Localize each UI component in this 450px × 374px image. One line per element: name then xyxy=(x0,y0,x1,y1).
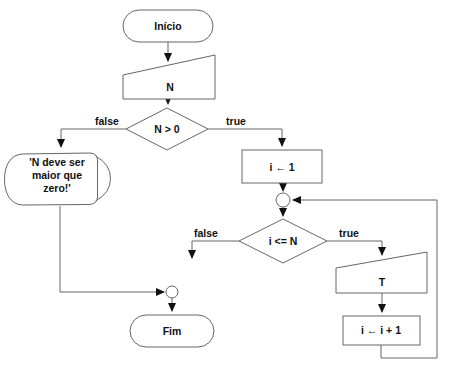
node-read-t: T xyxy=(336,252,427,293)
edge-error-to-junction-bottom xyxy=(60,206,164,292)
edge-check-n-false xyxy=(61,129,126,147)
node-init-i-label: i ← 1 xyxy=(269,161,294,173)
node-read-t-label: T xyxy=(379,276,386,288)
node-check-loop: i <= N xyxy=(239,219,327,263)
node-check-loop-label: i <= N xyxy=(269,235,298,247)
node-read-n: N xyxy=(123,55,215,99)
edge-label-check-loop-true: true xyxy=(339,227,359,239)
node-check-n: N > 0 xyxy=(126,108,208,150)
node-junction-top xyxy=(276,193,290,207)
node-start: Início xyxy=(123,10,213,42)
flowchart-svg: false true false true Início N N > 0 'N … xyxy=(0,0,450,374)
node-error-msg-line3: zero!' xyxy=(43,182,71,194)
node-init-i: i ← 1 xyxy=(242,150,322,183)
node-read-n-label: N xyxy=(166,81,174,93)
node-end-label: Fim xyxy=(163,325,182,337)
edge-label-check-n-true: true xyxy=(226,115,246,127)
node-error-msg-line1: 'N deve ser xyxy=(29,156,85,168)
edge-check-loop-true xyxy=(327,241,382,255)
node-increment-i: i ← i + 1 xyxy=(343,316,420,345)
edge-label-check-loop-false: false xyxy=(194,227,218,239)
flowchart-canvas: false true false true Início N N > 0 'N … xyxy=(0,0,450,374)
node-error-msg-line2: maior que xyxy=(32,169,82,181)
node-increment-i-label: i ← i + 1 xyxy=(361,324,401,336)
node-junction-bottom xyxy=(166,286,178,298)
edge-check-loop-false xyxy=(192,241,239,258)
edge-label-check-n-false: false xyxy=(95,115,119,127)
node-end: Fim xyxy=(130,315,214,347)
node-check-n-label: N > 0 xyxy=(154,123,180,135)
node-start-label: Início xyxy=(154,20,181,32)
node-error-msg: 'N deve ser maior que zero!' xyxy=(5,153,111,205)
edge-check-n-true xyxy=(208,129,282,146)
